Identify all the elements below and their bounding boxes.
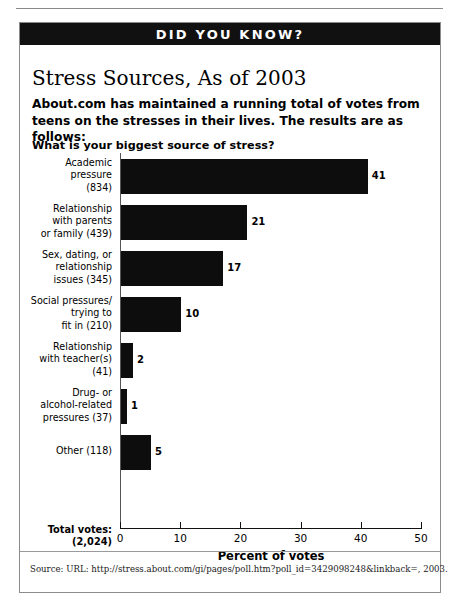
bar-value-label: 2 [137, 354, 144, 365]
bar [121, 205, 247, 240]
category-label: Academicpressure(834) [20, 157, 112, 194]
category-label-line: (41) [20, 366, 112, 378]
category-label-line: Drug- or [20, 387, 112, 399]
category-label-line: pressure [20, 169, 112, 181]
bar [121, 159, 368, 194]
x-axis-tick [120, 522, 121, 529]
category-label-line: Academic [20, 157, 112, 169]
category-label-line: Other (118) [20, 445, 112, 457]
bar-value-label: 21 [251, 216, 265, 227]
bar-value-label: 41 [372, 170, 386, 181]
category-label-line: with parents [20, 215, 112, 227]
category-label-line: Social pressures/ [20, 295, 112, 307]
category-label-line: trying to [20, 307, 112, 319]
category-label: Sex, dating, orrelationshipissues (345) [20, 249, 112, 286]
x-axis-tick-label: 30 [294, 532, 307, 544]
category-label-line: issues (345) [20, 274, 112, 286]
x-axis-tick [421, 522, 422, 529]
bar-value-label: 1 [131, 400, 138, 411]
x-axis-tick-label: 50 [414, 532, 427, 544]
bar-value-label: 17 [227, 262, 241, 273]
x-axis-tick [301, 522, 302, 529]
x-axis-tick-label: 10 [174, 532, 187, 544]
category-label-line: Relationship [20, 341, 112, 353]
bar [121, 389, 127, 424]
category-label-line: with teacher(s) [20, 353, 112, 365]
poll-question: What is your biggest source of stress? [32, 139, 275, 152]
category-label: Other (118) [20, 445, 112, 457]
total-votes-line-2: (2,024) [20, 536, 112, 548]
category-label-line: Relationship [20, 203, 112, 215]
category-label-line: alcohol-related [20, 399, 112, 411]
bar-value-label: 10 [185, 308, 199, 319]
x-axis-line [120, 528, 422, 529]
category-label-line: relationship [20, 261, 112, 273]
x-axis-tick [180, 522, 181, 529]
source-citation: Source: URL: http://stress.about.com/gi/… [30, 564, 448, 574]
bar-value-label: 5 [155, 446, 162, 457]
category-label-line: fit in (210) [20, 320, 112, 332]
bar [121, 297, 181, 332]
category-label-line: Sex, dating, or [20, 249, 112, 261]
x-axis-tick-label: 40 [354, 532, 367, 544]
x-axis-tick [361, 522, 362, 529]
category-label-line: or family (439) [20, 228, 112, 240]
x-axis-tick-label: 0 [117, 532, 124, 544]
category-label: Relationshipwith parentsor family (439) [20, 203, 112, 240]
page-header-rule [16, 8, 443, 9]
banner-title: DID YOU KNOW? [156, 27, 305, 42]
bar [121, 435, 151, 470]
stress-sources-bar-chart: 01020304050 41211710215 Academicpressure… [20, 153, 440, 553]
source-divider [20, 551, 440, 552]
bar [121, 343, 133, 378]
banner: DID YOU KNOW? [20, 23, 440, 45]
total-votes-line-1: Total votes: [20, 524, 112, 536]
did-you-know-feature-box: DID YOU KNOW? Stress Sources, As of 2003… [19, 22, 441, 593]
category-label-line: pressures (37) [20, 412, 112, 424]
page-title: Stress Sources, As of 2003 [32, 66, 307, 90]
category-label: Drug- oralcohol-relatedpressures (37) [20, 387, 112, 424]
category-label: Social pressures/trying tofit in (210) [20, 295, 112, 332]
total-votes-label: Total votes: (2,024) [20, 524, 112, 549]
x-axis-tick [240, 522, 241, 529]
x-axis-tick-label: 20 [234, 532, 247, 544]
category-label: Relationshipwith teacher(s)(41) [20, 341, 112, 378]
bar [121, 251, 223, 286]
category-label-line: (834) [20, 182, 112, 194]
